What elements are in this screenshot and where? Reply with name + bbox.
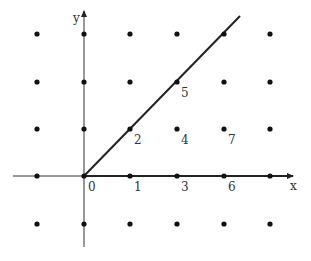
point-label: 5: [181, 86, 189, 100]
lattice-point: [34, 126, 39, 131]
lattice-point: [174, 126, 179, 131]
point-label: 4: [181, 133, 189, 147]
point-label: 7: [228, 133, 236, 147]
lattice-point: [34, 31, 39, 36]
lattice-point: [127, 221, 132, 226]
point-label: 1: [134, 180, 142, 194]
lattice-diagram: 01234567 x y: [0, 0, 311, 261]
lattice-point: [34, 221, 39, 226]
diagram-svg: 01234567 x y: [0, 0, 311, 261]
lattice-point: [267, 31, 272, 36]
lattice-point: [127, 126, 132, 131]
point-label: 6: [228, 180, 236, 194]
point-labels: 01234567: [88, 86, 236, 194]
lattice-point: [127, 173, 132, 178]
lattice-point: [174, 31, 179, 36]
lattice-point: [174, 79, 179, 84]
cone-ray: [84, 16, 240, 176]
lattice-point: [127, 31, 132, 36]
lattice-point: [174, 173, 179, 178]
lattice-point: [221, 79, 226, 84]
point-label: 3: [181, 180, 189, 194]
lattice-point: [267, 221, 272, 226]
lattice-point: [267, 173, 272, 178]
lattice-point: [81, 79, 86, 84]
lattice-point: [221, 126, 226, 131]
lattice-point: [267, 79, 272, 84]
lattice-point: [34, 79, 39, 84]
lattice-point: [81, 173, 86, 178]
lattice-point: [127, 79, 132, 84]
lattice-point: [174, 221, 179, 226]
lattice-point: [81, 221, 86, 226]
point-label: 2: [134, 133, 142, 147]
y-axis-label: y: [72, 11, 80, 25]
x-axis-label: x: [290, 179, 297, 193]
lattice-point: [81, 31, 86, 36]
lattice-point: [221, 221, 226, 226]
lattice-point: [221, 31, 226, 36]
lattice-point: [81, 126, 86, 131]
lattice-points: [34, 31, 272, 226]
lattice-point: [267, 126, 272, 131]
lattice-point: [34, 173, 39, 178]
lattice-point: [221, 173, 226, 178]
point-label: 0: [88, 180, 96, 194]
